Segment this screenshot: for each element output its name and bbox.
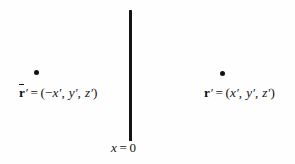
rparen-source: ) [270, 85, 275, 100]
comma-2-source: , [255, 85, 260, 100]
overbar-accent: r [19, 85, 25, 99]
plane-variable-x: x [111, 140, 117, 155]
minus-sign-mirror: − [45, 85, 53, 100]
boundary-plane-line [129, 10, 132, 141]
figure-canvas: r′=(−x′, y′, z′) r′=(x′, y′, z′) x=0 [0, 0, 295, 164]
plane-equals-sign: = [117, 140, 130, 155]
plane-equation-label: x=0 [111, 141, 136, 154]
plane-value-zero: 0 [130, 140, 137, 155]
comma-1-mirror: , [61, 85, 66, 100]
equals-sign-mirror: = [28, 85, 41, 100]
vector-symbol-r-bar: r [19, 85, 25, 100]
rparen-mirror: ) [93, 85, 98, 100]
equals-sign-source: = [213, 85, 226, 100]
source-point-label: r′=(x′, y′, z′) [204, 86, 275, 100]
mirror-point-label: r′=(−x′, y′, z′) [19, 85, 97, 100]
mirror-point-dot [34, 70, 39, 75]
comma-1-source: , [239, 85, 244, 100]
source-point-dot [220, 71, 225, 76]
comma-2-mirror: , [78, 85, 83, 100]
